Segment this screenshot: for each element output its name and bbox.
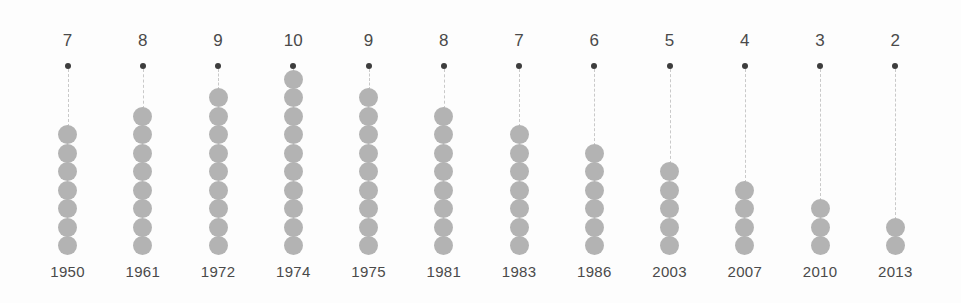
- column-top-marker-dot: [817, 63, 823, 69]
- chart-column: 71983: [482, 0, 557, 303]
- column-top-marker-dot: [140, 63, 146, 69]
- column-connector-line: [820, 69, 821, 201]
- unit-dot: [434, 181, 453, 200]
- unit-dot: [510, 218, 529, 237]
- column-category-label: 2013: [858, 263, 933, 281]
- column-unit-dot-stack: [557, 144, 632, 255]
- column-top-marker-dot: [516, 63, 522, 69]
- unit-dot: [510, 181, 529, 200]
- column-connector-line: [745, 69, 746, 183]
- unit-dot: [735, 236, 754, 255]
- chart-column: 81961: [105, 0, 180, 303]
- unit-dot: [284, 181, 303, 200]
- unit-dot: [58, 218, 77, 237]
- column-unit-dot-stack: [256, 70, 331, 255]
- unit-dot: [359, 125, 378, 144]
- chart-column: 101974: [256, 0, 331, 303]
- column-connector-line: [444, 69, 445, 109]
- column-category-label: 1986: [557, 263, 632, 281]
- chart-column: 81981: [406, 0, 481, 303]
- column-unit-dot-stack: [105, 107, 180, 255]
- unit-dot: [133, 199, 152, 218]
- column-unit-dot-stack: [707, 181, 782, 255]
- unit-dot: [133, 236, 152, 255]
- column-value-label: 8: [406, 31, 481, 51]
- column-value-label: 8: [105, 31, 180, 51]
- unit-dot: [585, 144, 604, 163]
- unit-dot: [660, 199, 679, 218]
- column-connector-line: [143, 69, 144, 109]
- column-top-marker-dot: [441, 63, 447, 69]
- unit-dot: [510, 125, 529, 144]
- unit-dot: [434, 162, 453, 181]
- unit-dot: [434, 125, 453, 144]
- column-connector-line: [369, 69, 370, 90]
- unit-dot: [209, 125, 228, 144]
- unit-dot: [58, 199, 77, 218]
- column-unit-dot-stack: [783, 200, 858, 256]
- unit-dot: [133, 125, 152, 144]
- unit-dot: [735, 218, 754, 237]
- unit-dot: [359, 162, 378, 181]
- column-connector-line: [594, 69, 595, 146]
- column-category-label: 1981: [406, 263, 481, 281]
- unit-dot: [811, 236, 830, 255]
- column-connector-line: [895, 69, 896, 220]
- chart-columns: 7195081961919721019749197581981719836198…: [0, 0, 961, 303]
- unit-dot: [209, 218, 228, 237]
- unit-dot: [209, 144, 228, 163]
- column-connector-line: [519, 69, 520, 127]
- unit-dot: [359, 199, 378, 218]
- chart-column: 71950: [30, 0, 105, 303]
- column-value-label: 2: [858, 31, 933, 51]
- unit-dot: [585, 236, 604, 255]
- column-top-marker-dot: [366, 63, 372, 69]
- column-connector-line: [218, 69, 219, 90]
- unit-dot: [811, 199, 830, 218]
- column-unit-dot-stack: [331, 89, 406, 256]
- unit-dot: [209, 88, 228, 107]
- unit-dot: [284, 236, 303, 255]
- unit-dot: [434, 199, 453, 218]
- column-unit-dot-stack: [30, 126, 105, 256]
- unit-dot: [660, 162, 679, 181]
- unit-dot: [209, 162, 228, 181]
- column-category-label: 1983: [482, 263, 557, 281]
- unit-dot: [133, 181, 152, 200]
- unit-dot: [735, 199, 754, 218]
- column-connector-line: [68, 69, 69, 127]
- column-unit-dot-stack: [632, 163, 707, 256]
- unit-dot: [359, 181, 378, 200]
- column-value-label: 10: [256, 31, 331, 51]
- column-category-label: 2010: [783, 263, 858, 281]
- unit-dot: [660, 181, 679, 200]
- column-category-label: 2007: [707, 263, 782, 281]
- unit-dot: [434, 218, 453, 237]
- unit-dot: [510, 236, 529, 255]
- chart-column: 61986: [557, 0, 632, 303]
- chart-column: 91975: [331, 0, 406, 303]
- unit-dot: [58, 236, 77, 255]
- unit-dot: [434, 236, 453, 255]
- unit-dot: [284, 125, 303, 144]
- unit-dot: [585, 199, 604, 218]
- column-unit-dot-stack: [858, 218, 933, 255]
- unit-dot: [209, 199, 228, 218]
- unit-dot: [359, 107, 378, 126]
- unit-dot: [58, 125, 77, 144]
- unit-dot: [434, 144, 453, 163]
- column-category-label: 1961: [105, 263, 180, 281]
- unit-dot: [510, 199, 529, 218]
- column-category-label: 2003: [632, 263, 707, 281]
- chart-column: 42007: [707, 0, 782, 303]
- column-top-marker-dot: [65, 63, 71, 69]
- unit-dot: [284, 88, 303, 107]
- column-value-label: 9: [181, 31, 256, 51]
- unit-dot: [359, 236, 378, 255]
- unit-dot: [811, 218, 830, 237]
- chart-column: 52003: [632, 0, 707, 303]
- column-category-label: 1974: [256, 263, 331, 281]
- column-value-label: 3: [783, 31, 858, 51]
- chart-column: 91972: [181, 0, 256, 303]
- column-unit-dot-stack: [181, 89, 256, 256]
